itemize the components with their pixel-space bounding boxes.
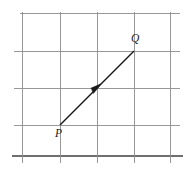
vector-diagram-canvas xyxy=(0,0,189,169)
point-label-q: Q xyxy=(131,33,139,45)
point-label-p: P xyxy=(55,128,62,140)
grid-horizontal-lines xyxy=(12,13,183,156)
vector-diagram-figure: P Q xyxy=(0,0,189,169)
